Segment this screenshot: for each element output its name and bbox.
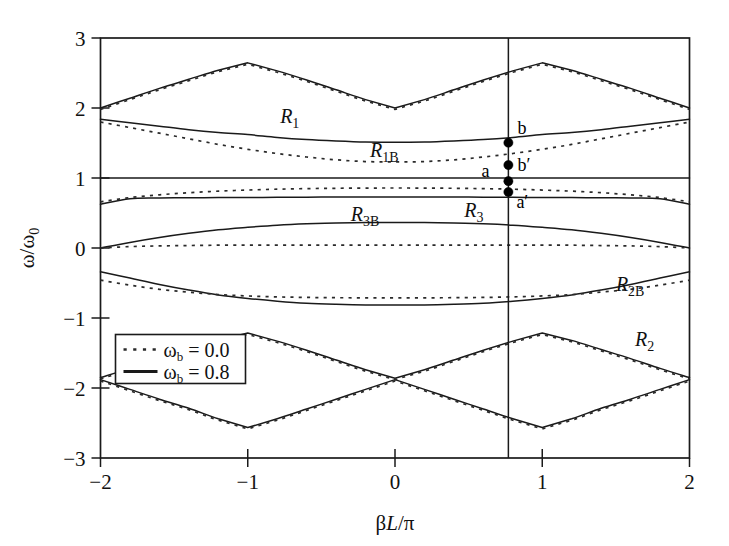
y-tick-label-6: −3 xyxy=(63,447,85,471)
tick-label-layer: −2−10123210−1−2−3 xyxy=(63,27,695,494)
band-label-r3: R3 xyxy=(463,199,483,225)
curve-r3-solid-5 xyxy=(101,197,690,204)
y-tick-label-1: 2 xyxy=(75,97,86,121)
y-tick-label-5: −2 xyxy=(63,377,85,401)
band-label-base: R xyxy=(350,203,363,225)
band-label-subscript: 1 xyxy=(292,116,299,131)
figure-root: bb′aa′ R1R1BR3BR3R2BR2 −2−10123210−1−2−3… xyxy=(0,0,729,546)
y-tick-label-0: 3 xyxy=(75,27,86,51)
marker-layer: bb′aa′ xyxy=(481,38,530,458)
legend-omega: ω xyxy=(164,339,177,361)
x-axis-title-pi: /π xyxy=(398,511,415,535)
x-tick-label-2: 0 xyxy=(390,470,401,494)
curve-r2b-solid-9 xyxy=(101,272,690,305)
plot-frame xyxy=(101,38,690,458)
band-label-r1: R1 xyxy=(279,105,299,131)
legend-value: = 0.8 xyxy=(183,361,229,383)
curve-r2-solid-12 xyxy=(101,380,690,428)
y-tick-label-4: −1 xyxy=(63,307,85,331)
band-label-subscript: 2 xyxy=(647,339,654,354)
band-label-subscript: 3B xyxy=(363,214,379,229)
band-label-base: R xyxy=(369,139,382,161)
marked-point-label-b: b xyxy=(517,118,526,138)
band-label-subscript: 1B xyxy=(382,150,398,165)
marked-point-b′[interactable] xyxy=(504,160,513,169)
curve-r2b-dotted-10 xyxy=(101,280,690,298)
y-axis-title-omega: ω/ω xyxy=(15,235,39,268)
curve-r3b-dotted-8 xyxy=(101,245,690,248)
x-tick-label-1: −1 xyxy=(237,470,259,494)
marked-point-label-a′: a′ xyxy=(516,192,528,212)
marked-point-label-b′: b′ xyxy=(517,155,530,175)
marked-point-a′[interactable] xyxy=(504,187,513,196)
legend-value: = 0.0 xyxy=(183,339,229,361)
curve-r1b-solid-2 xyxy=(101,119,690,142)
legend: ωb = 0.0ωb = 0.8 xyxy=(116,335,246,386)
x-axis-title-L: L xyxy=(385,511,398,535)
band-label-base: R xyxy=(615,273,628,295)
band-label-base: R xyxy=(463,199,476,221)
curve-r3b-solid-7 xyxy=(101,222,690,248)
legend-label-1[interactable]: ωb = 0.8 xyxy=(164,361,230,386)
band-label-r2b: R2B xyxy=(615,273,645,299)
marked-point-a[interactable] xyxy=(504,177,513,186)
y-tick-label-2: 1 xyxy=(75,167,86,191)
y-axis-title-subscript: 0 xyxy=(27,228,42,235)
band-label-layer: R1R1BR3BR3R2BR2 xyxy=(279,105,654,354)
axes xyxy=(92,38,690,467)
dispersion-chart: bb′aa′ R1R1BR3BR3R2BR2 −2−10123210−1−2−3… xyxy=(0,0,729,546)
x-tick-label-4: 2 xyxy=(684,470,695,494)
x-axis-title: βL/π xyxy=(376,511,415,535)
curve-r2-dotted-14 xyxy=(101,381,690,429)
band-label-subscript: 2B xyxy=(628,284,644,299)
band-label-subscript: 3 xyxy=(476,210,483,225)
band-label-base: R xyxy=(634,328,647,350)
x-tick-label-0: −2 xyxy=(89,470,111,494)
y-tick-label-3: 0 xyxy=(75,237,86,261)
legend-omega: ω xyxy=(164,361,177,383)
x-axis-title-beta: β xyxy=(376,511,387,535)
curve-r1-dotted-1 xyxy=(101,64,690,109)
x-tick-label-3: 1 xyxy=(537,470,548,494)
band-label-r2: R2 xyxy=(634,328,654,354)
marked-point-label-a: a xyxy=(481,161,489,181)
y-axis-title: ω/ω0 xyxy=(15,228,42,268)
band-label-base: R xyxy=(279,105,292,127)
band-label-r3b: R3B xyxy=(350,203,380,229)
curve-r1-solid-0 xyxy=(101,63,690,108)
marked-point-b[interactable] xyxy=(504,138,513,147)
curve-r3-dotted-6 xyxy=(101,188,690,202)
